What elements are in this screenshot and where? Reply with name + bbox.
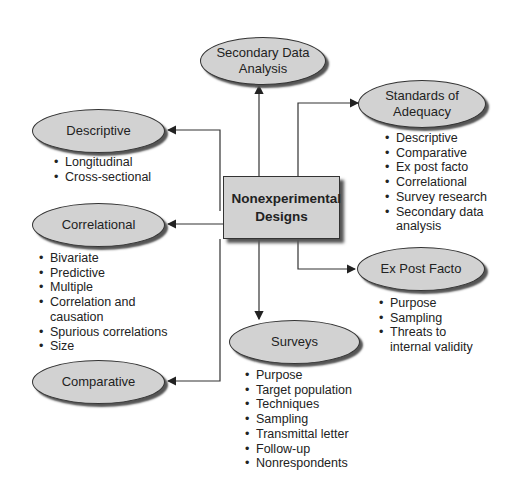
node-label: Ex Post Facto <box>381 261 462 277</box>
surveys-list: Purpose Target population Techniques Sam… <box>245 368 385 471</box>
node-descriptive: Descriptive <box>32 109 165 153</box>
descriptive-list: Longitudinal Cross-sectional <box>54 155 194 184</box>
standards-list: Descriptive Comparative Ex post facto Co… <box>385 131 515 234</box>
node-secondary-data-analysis: Secondary Data Analysis <box>200 37 326 85</box>
node-label: Descriptive <box>66 123 130 139</box>
list-item: Sampling <box>379 311 499 326</box>
list-item: Nonrespondents <box>245 456 385 471</box>
list-item: Bivariate <box>39 251 189 266</box>
node-label: Secondary Data Analysis <box>201 45 325 77</box>
list-item: Techniques <box>245 397 385 412</box>
node-comparative: Comparative <box>32 360 165 404</box>
list-item: Secondary data analysis <box>385 205 484 234</box>
list-item: Threats to internal validity <box>379 325 490 354</box>
ex-post-facto-list: Purpose Sampling Threats to internal val… <box>379 296 499 355</box>
list-item: Ex post facto <box>385 160 515 175</box>
list-item: Target population <box>245 383 385 398</box>
list-item: Cross-sectional <box>54 170 194 185</box>
list-item: Comparative <box>385 146 515 161</box>
node-ex-post-facto: Ex Post Facto <box>357 247 485 291</box>
node-standards-of-adequacy: Standards of Adequacy <box>358 80 486 128</box>
node-label: Comparative <box>62 374 136 390</box>
center-title: Nonexperimental Designs <box>232 190 332 226</box>
node-label: Surveys <box>271 334 318 350</box>
list-item: Transmittal letter <box>245 427 385 442</box>
correlational-list: Bivariate Predictive Multiple Correlatio… <box>39 251 189 354</box>
center-node-nonexperimental-designs: Nonexperimental Designs <box>223 176 340 239</box>
list-item: Predictive <box>39 266 189 281</box>
list-item: Sampling <box>245 412 385 427</box>
node-surveys: Surveys <box>229 320 360 364</box>
list-item: Purpose <box>245 368 385 383</box>
list-item: Correlational <box>385 175 515 190</box>
list-item: Correlation and causation <box>39 295 155 324</box>
list-item: Spurious correlations <box>39 325 189 340</box>
node-label: Correlational <box>62 217 136 233</box>
list-item: Descriptive <box>385 131 515 146</box>
list-item: Follow-up <box>245 442 385 457</box>
node-correlational: Correlational <box>32 203 165 247</box>
list-item: Survey research <box>385 190 515 205</box>
node-label: Standards of Adequacy <box>379 88 465 120</box>
list-item: Purpose <box>379 296 499 311</box>
list-item: Size <box>39 339 189 354</box>
list-item: Multiple <box>39 280 189 295</box>
list-item: Longitudinal <box>54 155 194 170</box>
